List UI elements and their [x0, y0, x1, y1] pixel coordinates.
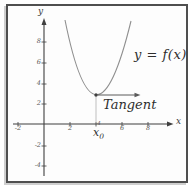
curve-equation-label: y = f(x) [134, 48, 187, 61]
x-tick-neg2: -2 [12, 125, 24, 132]
x-axis-arrowhead [167, 122, 174, 127]
y-axis-arrowhead [42, 18, 47, 25]
x0-subscript: 0 [99, 132, 104, 141]
x-tick-8: 8 [142, 125, 154, 132]
x-tick-2: 2 [64, 125, 76, 132]
math-figure: y x y = f(x) Tangent x0 -2 2 4 6 8 8 6 4… [0, 0, 193, 187]
y-tick-2: 2 [26, 100, 41, 107]
x-tick-6: 6 [116, 125, 128, 132]
function-curve [65, 20, 131, 95]
x-axis-label: x [176, 117, 181, 126]
y-tick-neg4: -4 [26, 162, 41, 169]
y-tick-neg2: -2 [26, 142, 41, 149]
tangent-label: Tangent [103, 98, 156, 111]
y-tick-8: 8 [26, 38, 41, 45]
x-tick-4: 4 [93, 121, 105, 127]
y-tick-4: 4 [26, 80, 41, 87]
axes-canvas [0, 0, 193, 187]
y-tick-6: 6 [26, 59, 41, 66]
y-axis-label: y [38, 7, 43, 16]
x0-point-label: x0 [93, 127, 104, 138]
tangent-point-dot [94, 93, 97, 96]
